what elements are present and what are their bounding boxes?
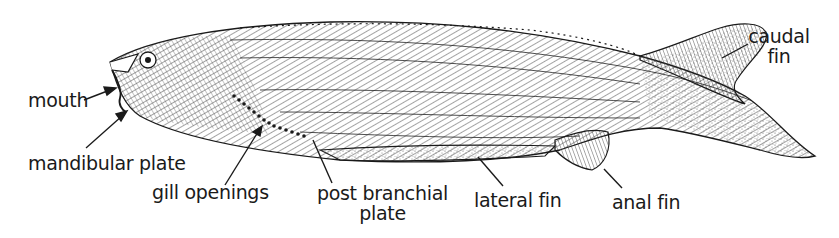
- lateral-fin: [320, 145, 555, 161]
- label-lateral-fin: lateral fin: [474, 190, 562, 210]
- lateral-fin-leader: [478, 157, 503, 186]
- label-mandibular-plate: mandibular plate: [28, 153, 186, 173]
- label-caudal-line1: caudal: [748, 26, 810, 46]
- label-post-branchial-plate: post branchial plate: [315, 183, 450, 223]
- label-post-branchial-line1: post branchial: [315, 183, 450, 203]
- arrowhead-icon: [104, 87, 116, 95]
- anal-fin-leader: [604, 169, 622, 188]
- mandibular-arrow: [86, 116, 122, 148]
- label-post-branchial-line2: plate: [315, 203, 450, 223]
- label-mouth: mouth: [28, 90, 88, 110]
- label-caudal-line2: fin: [748, 46, 810, 66]
- label-anal-fin: anal fin: [612, 192, 680, 212]
- eye-icon: [140, 52, 156, 68]
- label-gill-openings: gill openings: [152, 182, 269, 202]
- label-caudal-fin: caudal fin: [748, 26, 810, 66]
- fish-diagram: mouth mandibular plate gill openings pos…: [0, 0, 839, 238]
- anal-fin: [555, 130, 609, 170]
